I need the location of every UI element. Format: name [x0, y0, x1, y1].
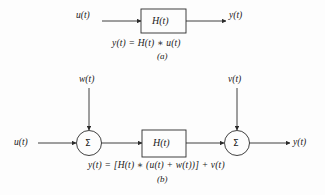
part-b-input-label: u(t): [14, 138, 28, 148]
part-b-output-label: y(t): [293, 138, 306, 148]
part-b-noise-w-label: w(t): [79, 75, 94, 85]
part-b-equation: y(t) = [H(t) ∗ (u(t) + w(t))] + v(t): [88, 161, 225, 171]
part-a-input-label: u(t): [76, 11, 90, 21]
part-b-caption: (b): [157, 175, 168, 184]
part-a-caption: (a): [157, 52, 168, 61]
part-b-summer-2-symbol: Σ: [233, 139, 239, 148]
part-a-equation: y(t) = H(t) ∗ u(t): [112, 39, 181, 49]
part-b-block-label: H(t): [153, 138, 170, 148]
part-b-noise-v-label: v(t): [228, 75, 241, 85]
part-a-output-label: y(t): [229, 11, 242, 21]
figure-canvas: u(t) H(t) y(t) y(t) = H(t) ∗ u(t) (a) w(…: [0, 0, 325, 195]
part-b-summer-1-symbol: Σ: [85, 139, 91, 148]
part-a-block-label: H(t): [152, 16, 169, 26]
